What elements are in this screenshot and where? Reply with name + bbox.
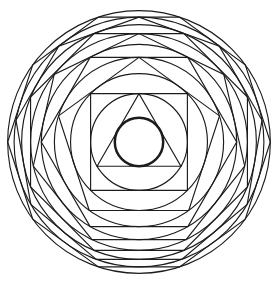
circumcircle-of-pentagon <box>54 57 223 226</box>
octagon <box>31 34 248 251</box>
circumcircle-of-heptagon <box>31 34 248 251</box>
geometric-drawing <box>0 0 279 287</box>
mandala-svg <box>0 0 279 287</box>
inner-circle <box>115 118 163 166</box>
circumcircle-of-octagon <box>22 25 257 260</box>
nonagon <box>16 17 262 259</box>
circumcircle-of-nonagon <box>14 17 264 267</box>
pentagon <box>59 57 220 210</box>
decagon <box>8 17 271 267</box>
triangle <box>97 94 181 167</box>
circumcircle-of-triangle <box>91 94 188 191</box>
circumcircle-of-decagon <box>8 11 271 274</box>
